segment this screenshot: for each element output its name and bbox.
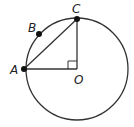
label-o: O [74,73,83,87]
point-a [21,66,27,72]
label-a: A [9,63,18,77]
right-angle-marker [68,61,77,69]
label-b: B [28,21,36,35]
point-b [36,31,42,37]
label-c: C [72,2,81,16]
point-c [74,16,80,22]
circle-diagram: A B C O [0,0,134,127]
